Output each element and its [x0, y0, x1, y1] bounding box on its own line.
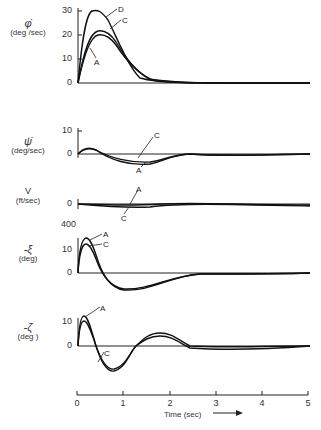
curves	[78, 10, 310, 371]
annotation-leaders	[85, 9, 153, 362]
chart-figure: φ̇ (deg /sec) ψ̇ (deg/sec) V (ft/sec) -ξ…	[0, 0, 321, 430]
axes	[77, 8, 310, 413]
plot-canvas	[0, 0, 321, 430]
time-arrow-icon	[236, 410, 243, 416]
